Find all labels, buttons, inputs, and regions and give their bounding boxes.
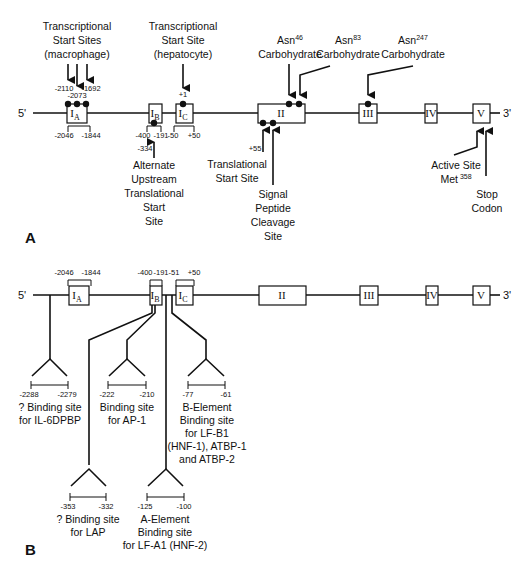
annotation-text: Start Sites [53, 34, 101, 46]
svg-text:-210: -210 [139, 390, 154, 399]
pos-label: +1 [179, 90, 188, 99]
annotation-text: Signal [258, 188, 287, 200]
annotation-text: Start [143, 201, 165, 213]
panel-b-label: B [25, 541, 36, 558]
annotation-text: Peptide [255, 202, 291, 214]
svg-text:-61: -61 [221, 390, 232, 399]
svg-text:B-Element: B-Element [182, 401, 231, 413]
annotation-text: Site [145, 215, 163, 227]
annotation-text: Active Site [431, 159, 481, 171]
asn46-label: Asn46 [277, 34, 303, 46]
svg-text:(HNF-1), ATBP-1: (HNF-1), ATBP-1 [167, 440, 246, 452]
exon-ii-label: II [278, 289, 286, 301]
arrow-up-icon [454, 131, 477, 155]
svg-text:Binding site: Binding site [180, 414, 234, 426]
pos-label: +55 [249, 144, 262, 153]
annotation-text: Start Site [215, 172, 258, 184]
svg-text:for LF-B1: for LF-B1 [185, 427, 229, 439]
annotation-text: Cleavage [251, 216, 296, 228]
annotation-text: Translational [124, 187, 184, 199]
svg-text:-353: -353 [60, 502, 75, 511]
pos-label: -191 [153, 131, 168, 140]
svg-text:-2288: -2288 [19, 390, 38, 399]
five-prime-label-a: 5' [18, 107, 26, 119]
pos-label: -2046 [54, 268, 73, 277]
annotation-text: Transcriptional [43, 20, 111, 32]
asn83-label: Asn83 [335, 34, 361, 46]
carbohydrate-dot [286, 101, 292, 107]
gene-diagram: 5' 3' IA -2046 -1844 Transcriptional Sta… [0, 0, 532, 573]
binding-site-il6dpbp: -2288 -2279 ? Binding site for IL-6DPBP [18, 295, 81, 426]
svg-text:? Binding site: ? Binding site [56, 513, 119, 525]
svg-text:? Binding site: ? Binding site [18, 401, 81, 413]
panel-a: 5' 3' IA -2046 -1844 Transcriptional Sta… [18, 20, 511, 246]
annotation-text: Upstream [131, 173, 177, 185]
svg-text:for LF-A1 (HNF-2): for LF-A1 (HNF-2) [123, 539, 208, 551]
pos-label: -2046 [54, 131, 73, 140]
svg-text:for LAP: for LAP [70, 526, 105, 538]
five-prime-label-b: 5' [18, 289, 26, 301]
arrow-down-icon [368, 66, 413, 95]
exon-iv-label: IV [426, 289, 438, 301]
three-prime-label-a: 3' [503, 107, 511, 119]
annotation-text: Carbohydrate [381, 48, 445, 60]
annotation-text: (macrophage) [44, 48, 109, 60]
exon-v-label: V [477, 107, 485, 119]
svg-text:Binding site: Binding site [100, 401, 154, 413]
pos-label: -1692 [81, 84, 100, 93]
annotation-text: Alternate [133, 159, 175, 171]
pos-label: -50 [168, 131, 179, 140]
asn247-label: Asn247 [398, 34, 428, 46]
exon-iv-label: IV [425, 107, 437, 119]
svg-text:-332: -332 [98, 502, 113, 511]
exon-ic-bracket [176, 280, 194, 286]
tss-dot [83, 101, 89, 107]
svg-text:for IL-6DPBP: for IL-6DPBP [19, 414, 81, 426]
svg-text:for AP-1: for AP-1 [108, 414, 146, 426]
pos-label: +50 [188, 268, 201, 277]
svg-text:and ATBP-2: and ATBP-2 [179, 453, 235, 465]
panel-a-label: A [25, 229, 36, 246]
cleavage-dot [270, 120, 276, 126]
pos-label: +50 [188, 131, 201, 140]
carbohydrate-dot [296, 101, 302, 107]
binding-site-b-element: -77 -61 B-Element Binding site for LF-B1… [167, 295, 246, 465]
exon-ii-label: II [277, 107, 285, 119]
start-dot [260, 120, 266, 126]
met358-label: Met358 [440, 173, 471, 185]
annotation-text: Site [264, 230, 282, 242]
annotation-text: Stop [476, 188, 498, 200]
pos-label: -1844 [81, 131, 100, 140]
pos-label: -191 [153, 268, 168, 277]
svg-text:A-Element: A-Element [140, 513, 189, 525]
exon-iii-label: III [363, 107, 374, 119]
annotation-text: Codon [472, 202, 503, 214]
pos-label: -400 [137, 268, 152, 277]
annotation-text: Transcriptional [149, 20, 217, 32]
exon-v-label: V [477, 289, 485, 301]
three-prime-label-b: 3' [503, 289, 511, 301]
exon-ia-bracket [68, 280, 91, 286]
arrow-down-icon [300, 66, 330, 95]
annotation-text: (hepatocyte) [154, 48, 212, 60]
alt-start-dot [151, 120, 157, 126]
pos-label: -1844 [81, 268, 100, 277]
annotation-text: Carbohydrate [316, 48, 380, 60]
exon-ib-bracket [150, 280, 162, 286]
svg-text:-77: -77 [183, 390, 194, 399]
exon-iii-label: III [364, 289, 375, 301]
pos-label: -334 [137, 144, 152, 153]
tss-dot [65, 101, 71, 107]
tss-dot [74, 101, 80, 107]
annotation-text: Start Site [161, 34, 204, 46]
pos-label: -51 [169, 268, 180, 277]
tss-dot [180, 101, 186, 107]
annotation-text: Carbohydrate [258, 48, 322, 60]
annotation-text: Translational [207, 158, 267, 170]
svg-text:-100: -100 [176, 502, 191, 511]
svg-text:-125: -125 [137, 502, 152, 511]
pos-label: -400 [135, 131, 150, 140]
panel-b: 5' 3' IA -2046 -1844 IB -400 -191 IC -51… [18, 268, 511, 558]
carbohydrate-dot [365, 101, 371, 107]
svg-text:Binding site: Binding site [138, 526, 192, 538]
